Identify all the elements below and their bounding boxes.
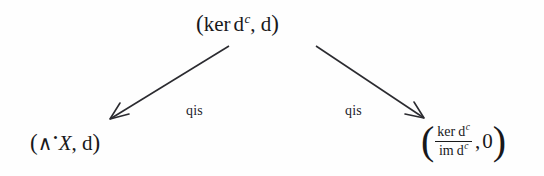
numerator-ker: ker xyxy=(437,124,455,139)
node-top-second-d: d xyxy=(261,12,272,36)
numerator-superscript: c xyxy=(466,122,470,132)
quotient-fraction: kerdc imdc xyxy=(435,124,472,158)
arrow-right-label: qis xyxy=(345,103,362,119)
fraction-denominator: imdc xyxy=(437,142,471,159)
node-right-open-paren: ( xyxy=(421,125,434,158)
node-bottom-left: (∧•X, d) xyxy=(30,131,100,154)
node-left-d: d xyxy=(82,131,93,155)
node-top: (kerdc, d) xyxy=(196,12,279,35)
fraction-numerator: kerdc xyxy=(435,124,472,141)
node-right-close-paren: ) xyxy=(493,125,506,158)
numerator-d: d xyxy=(458,124,465,139)
commutative-diagram: (kerdc, d) (∧•X, d) ( kerdc imdc , 0) qi… xyxy=(0,0,544,176)
node-left-comma: , xyxy=(72,131,83,155)
node-left-open-paren: ( xyxy=(30,130,38,155)
node-bottom-right: ( kerdc imdc , 0) xyxy=(421,124,506,158)
wedge-icon: ∧ xyxy=(38,132,53,154)
arrow-left xyxy=(110,46,229,119)
bullet-icon: • xyxy=(53,131,57,145)
arrow-left-label: qis xyxy=(186,103,203,119)
node-right-comma: , xyxy=(475,131,480,152)
node-top-open-paren: ( xyxy=(196,11,204,36)
node-left-close-paren: ) xyxy=(93,130,101,155)
node-right-zero: 0 xyxy=(482,131,493,152)
node-top-d: d xyxy=(234,12,245,36)
node-top-ker: ker xyxy=(204,12,231,36)
denominator-d: d xyxy=(457,143,464,158)
denominator-superscript: c xyxy=(464,141,468,151)
node-top-comma: , xyxy=(250,12,261,36)
node-left-variable: X xyxy=(59,131,72,155)
denominator-im: im xyxy=(439,143,454,158)
arrow-right xyxy=(316,46,424,118)
node-top-close-paren: ) xyxy=(271,11,279,36)
